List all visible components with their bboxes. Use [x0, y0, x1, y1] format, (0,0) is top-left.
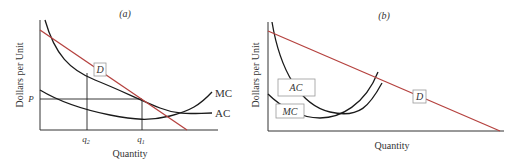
demand-label-a: D — [95, 64, 104, 75]
panel-b-x-axis-title: Quantity — [375, 140, 410, 151]
panel-b-y-axis-title: Dollars per Unit — [250, 42, 261, 107]
ac-label-b: AC — [289, 82, 303, 93]
ac-label-a: AC — [215, 107, 230, 119]
panel-a-title: (a) — [119, 8, 131, 20]
mc-curve-a — [40, 90, 212, 119]
demand-line-a — [40, 30, 187, 130]
ac-curve-a — [45, 20, 212, 114]
q2-tick-label: q2 — [82, 134, 90, 145]
panel-a: (a) Dollars per Unit D MC AC P q2 q1 Qua… — [14, 8, 232, 159]
panel-a-y-axis-title: Dollars per Unit — [14, 42, 25, 107]
mc-label-a: MC — [215, 87, 232, 99]
demand-label-b: D — [415, 91, 424, 102]
price-tick-label: P — [27, 94, 34, 104]
q1-tick-label: q1 — [137, 134, 145, 145]
mc-label-b: MC — [282, 106, 298, 117]
cost-curves-figure: (a) Dollars per Unit D MC AC P q2 q1 Qua… — [0, 0, 514, 162]
ac-curve-b — [272, 22, 382, 114]
panel-a-x-axis-title: Quantity — [113, 148, 148, 159]
panel-b: (b) Dollars per Unit AC MC D Quantity — [250, 10, 504, 151]
panel-b-title: (b) — [378, 10, 390, 22]
